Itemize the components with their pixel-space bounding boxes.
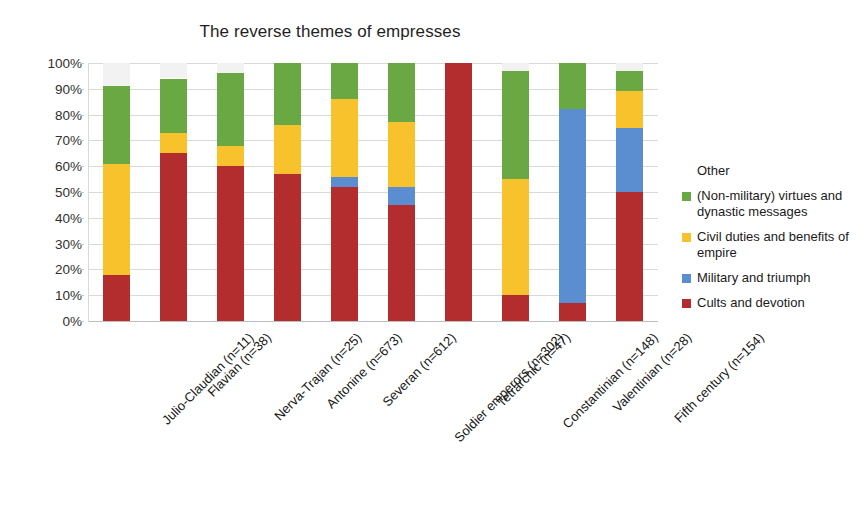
bar-segment[interactable] [274, 125, 301, 174]
y-axis-tick [80, 115, 84, 116]
bar-segment[interactable] [160, 63, 187, 78]
bar-segment[interactable] [103, 63, 130, 86]
legend-item[interactable]: Military and triumph [682, 270, 862, 286]
bar-segment[interactable] [388, 63, 415, 122]
legend-label: Other [697, 163, 730, 179]
legend-item[interactable]: Other [682, 163, 862, 179]
bar-segment[interactable] [331, 63, 358, 99]
bar-segment[interactable] [160, 79, 187, 133]
y-axis-tick [80, 192, 84, 193]
y-axis-label: 10% [36, 288, 82, 303]
y-axis-label: 50% [36, 185, 82, 200]
bar-group[interactable] [445, 63, 472, 321]
bar-segment[interactable] [616, 192, 643, 321]
bar-segment[interactable] [559, 303, 586, 321]
legend-swatch-icon [682, 233, 691, 242]
y-axis: 100%90%80%70%60%50%40%30%20%10%0% [30, 63, 82, 321]
legend-swatch-icon [682, 192, 691, 201]
bar-segment[interactable] [103, 275, 130, 321]
y-axis-label: 70% [36, 133, 82, 148]
y-axis-tick [80, 140, 84, 141]
bar-segment[interactable] [559, 109, 586, 303]
bar-segment[interactable] [217, 146, 244, 167]
y-axis-label: 20% [36, 262, 82, 277]
bar-segment[interactable] [616, 128, 643, 193]
y-axis-label: 40% [36, 210, 82, 225]
bar-segment[interactable] [616, 91, 643, 127]
y-axis-label: 0% [36, 314, 82, 329]
bars-layer [88, 63, 658, 321]
bar-segment[interactable] [445, 63, 472, 321]
bar-segment[interactable] [502, 179, 529, 295]
bar-segment[interactable] [388, 122, 415, 187]
bar-group[interactable] [160, 63, 187, 321]
legend-label: Civil duties and benefits of empire [697, 229, 862, 261]
y-axis-tick [80, 269, 84, 270]
bar-segment[interactable] [217, 73, 244, 145]
legend-label: (Non-military) virtues and dynastic mess… [697, 188, 862, 220]
y-axis-tick [80, 63, 84, 64]
legend-swatch-icon [682, 167, 691, 176]
bar-group[interactable] [559, 63, 586, 321]
bar-segment[interactable] [103, 164, 130, 275]
bar-segment[interactable] [217, 166, 244, 321]
gridline-0 [88, 321, 658, 322]
y-axis-tick [80, 321, 84, 322]
bar-group[interactable] [217, 63, 244, 321]
bar-segment[interactable] [331, 187, 358, 321]
bar-group[interactable] [502, 63, 529, 321]
y-axis-label: 80% [36, 107, 82, 122]
y-axis-label: 90% [36, 81, 82, 96]
bar-group[interactable] [274, 63, 301, 321]
legend-item[interactable]: Cults and devotion [682, 295, 862, 311]
y-axis-tick [80, 218, 84, 219]
x-axis-label: Julio-Claudian (n=11) [159, 330, 257, 428]
bar-segment[interactable] [388, 187, 415, 205]
legend-item[interactable]: (Non-military) virtues and dynastic mess… [682, 188, 862, 220]
bar-segment[interactable] [274, 174, 301, 321]
bar-segment[interactable] [160, 133, 187, 154]
y-axis-label: 30% [36, 236, 82, 251]
bar-segment[interactable] [559, 63, 586, 109]
bar-segment[interactable] [331, 99, 358, 176]
legend-item[interactable]: Civil duties and benefits of empire [682, 229, 862, 261]
y-axis-label: 60% [36, 159, 82, 174]
chart-legend: Other(Non-military) virtues and dynastic… [682, 163, 862, 320]
bar-segment[interactable] [502, 295, 529, 321]
bar-group[interactable] [388, 63, 415, 321]
x-axis-label: Tetrarchic (n=47) [493, 330, 573, 410]
legend-swatch-icon [682, 274, 691, 283]
bar-segment[interactable] [331, 177, 358, 187]
bar-group[interactable] [616, 63, 643, 321]
y-axis-label: 100% [36, 56, 82, 71]
bar-segment[interactable] [217, 63, 244, 73]
bar-group[interactable] [103, 63, 130, 321]
bar-segment[interactable] [103, 86, 130, 163]
bar-segment[interactable] [502, 71, 529, 179]
bar-segment[interactable] [616, 71, 643, 92]
bar-group[interactable] [331, 63, 358, 321]
legend-swatch-icon [682, 299, 691, 308]
bar-segment[interactable] [616, 63, 643, 71]
bar-segment[interactable] [160, 153, 187, 321]
y-axis-tick [80, 89, 84, 90]
bar-segment[interactable] [388, 205, 415, 321]
bar-segment[interactable] [274, 63, 301, 125]
legend-label: Military and triumph [697, 270, 810, 286]
x-axis-labels: Julio-Claudian (n=11)Flavian (n=38)Nerva… [88, 326, 688, 506]
y-axis-tick [80, 244, 84, 245]
y-axis-tick [80, 295, 84, 296]
y-axis-tick [80, 166, 84, 167]
chart-title: The reverse themes of empresses [0, 22, 660, 42]
bar-segment[interactable] [502, 63, 529, 71]
legend-label: Cults and devotion [697, 295, 805, 311]
